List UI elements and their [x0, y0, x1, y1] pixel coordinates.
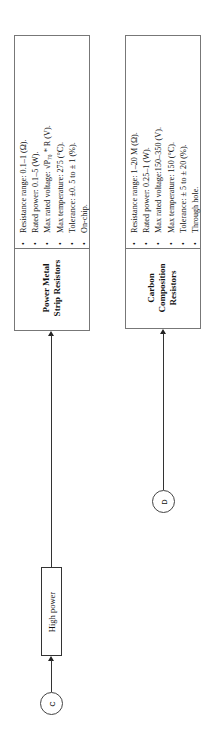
connector-line: [163, 333, 164, 490]
high-power-label: High power: [47, 591, 57, 631]
spec-item: •Tolerance: ± 5 to ± 20 (%).: [178, 127, 190, 245]
spec-item: •Max rated voltage:150–350 (V).: [153, 127, 165, 245]
spec-item: •Rated power: 0.1–5 (W).: [30, 125, 42, 245]
spec-item: •Tolerance: ±0. 5 to ± 1 (%).: [67, 125, 79, 245]
spec-item: •Max temperature: 150 (°C).: [166, 127, 178, 245]
spec-list: •Resistance range: 0.1–1 (Ω). •Rated pow…: [18, 125, 91, 245]
power-metal-strip-node: •Resistance range: 0.1–1 (Ω). •Rated pow…: [14, 35, 90, 331]
node-title: Carbon Composition Resistors: [146, 248, 179, 328]
spec-item: •Max temperature: 275 (°C).: [55, 125, 67, 245]
connector-line: [51, 660, 52, 692]
spec-item: •Through hole.: [190, 127, 202, 245]
node-title: Power Metal Strip Resistors: [41, 248, 63, 328]
spec-item: •Resistance range: 0.1–1 (Ω).: [18, 125, 30, 245]
high-power-box: High power: [41, 567, 62, 656]
connector-c: C: [40, 692, 63, 715]
spec-item: •Max rated voltage: √P₇₀ * R (V).: [42, 125, 54, 245]
spec-item: •Rated power: 0.25–1 (W).: [141, 127, 153, 245]
connector-line: [51, 335, 52, 567]
carbon-composition-node: •Resistance range: 1–20 M (Ω). •Rated po…: [125, 35, 201, 329]
connector-d: D: [152, 490, 175, 513]
spec-item: •On-chip.: [79, 125, 91, 245]
spec-list: •Resistance range: 1–20 M (Ω). •Rated po…: [129, 127, 202, 245]
spec-item: •Resistance range: 1–20 M (Ω).: [129, 127, 141, 245]
